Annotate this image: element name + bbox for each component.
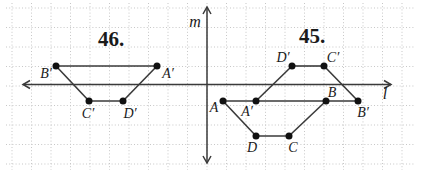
figure-46-number: 46. bbox=[98, 27, 124, 51]
figure-45-number: 45. bbox=[299, 24, 325, 48]
figure-45-point-label: A bbox=[209, 100, 219, 115]
figure-45-point-label: D′ bbox=[275, 50, 290, 65]
figure-46-point-dot bbox=[120, 98, 127, 105]
figure-45: D′C′AA′BB′DC45. bbox=[209, 24, 370, 155]
figure-46-segment bbox=[123, 66, 157, 101]
horizontal-axis-l-label: l bbox=[383, 85, 388, 102]
grid-layer bbox=[6, 3, 414, 170]
figure-45-point-label: B bbox=[328, 85, 337, 100]
figure-46: B′A′C′D′46. bbox=[40, 27, 175, 121]
figure-46-point-label: A′ bbox=[161, 66, 175, 81]
figure-45-point-dot bbox=[355, 98, 362, 105]
geometry-diagram: lm B′A′C′D′46.D′C′AA′BB′DC45. bbox=[0, 0, 422, 174]
figure-46-point-dot bbox=[86, 98, 93, 105]
textbook-diagram-page: lm B′A′C′D′46.D′C′AA′BB′DC45. bbox=[0, 0, 422, 174]
figure-46-point-dot bbox=[154, 63, 161, 70]
vertical-axis-m-label: m bbox=[189, 13, 201, 30]
figure-46-segment bbox=[56, 66, 89, 101]
figure-45-point-label: B′ bbox=[357, 105, 370, 120]
figure-45-point-dot bbox=[286, 133, 293, 140]
figure-45-point-label: C bbox=[288, 140, 298, 155]
figure-45-point-dot bbox=[253, 98, 260, 105]
figure-45-point-dot bbox=[253, 133, 260, 140]
figure-46-point-dot bbox=[53, 63, 60, 70]
figure-46-point-label: C′ bbox=[82, 106, 95, 121]
figure-45-point-label: D bbox=[246, 140, 257, 155]
figure-45-point-label: A′ bbox=[240, 104, 254, 119]
figure-46-point-label: B′ bbox=[40, 66, 53, 81]
figure-45-point-label: C′ bbox=[327, 50, 340, 65]
figure-46-point-label: D′ bbox=[122, 106, 137, 121]
figure-45-segment bbox=[289, 101, 326, 136]
figure-45-point-dot bbox=[220, 98, 227, 105]
figure-45-segment bbox=[256, 66, 292, 101]
